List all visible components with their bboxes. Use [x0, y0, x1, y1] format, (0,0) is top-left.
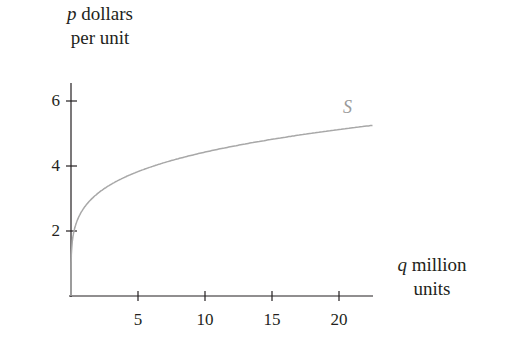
xtick-label-5: 5 [123, 310, 153, 330]
xtick-label-10: 10 [190, 310, 220, 330]
ytick-label-6: 6 [40, 91, 60, 111]
xtick-label-15: 15 [257, 310, 287, 330]
chart-plot [0, 0, 506, 349]
ytick-label-4: 4 [40, 156, 60, 176]
series-label-S: S [343, 97, 352, 118]
supply-curve-S [71, 125, 373, 296]
ytick-label-2: 2 [40, 221, 60, 241]
xtick-label-20: 20 [324, 310, 354, 330]
